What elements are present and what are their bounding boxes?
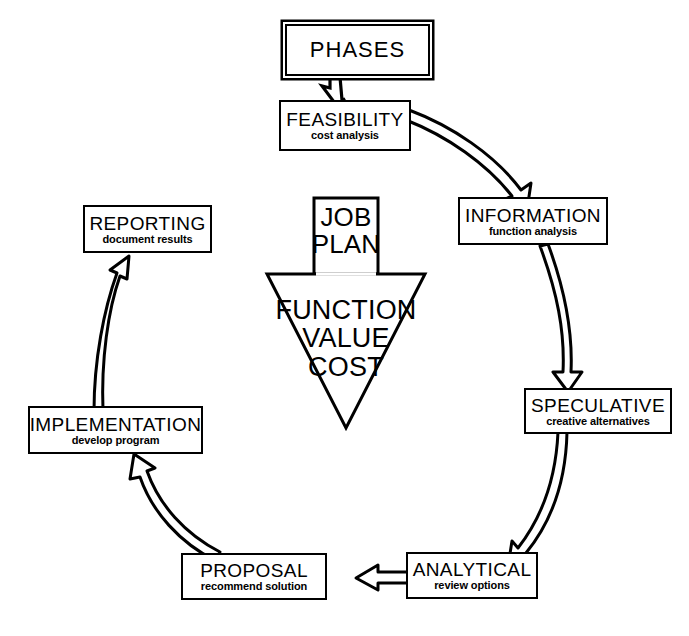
phase-title-implementation: IMPLEMENTATION [30, 415, 202, 434]
phase-subtitle-implementation: develop program [72, 435, 160, 446]
phase-subtitle-speculative: creative alternatives [546, 416, 650, 427]
phase-subtitle-analytical: review options [434, 580, 510, 591]
phase-box-implementation: IMPLEMENTATION develop program [28, 406, 203, 454]
job-plan-stem-line-1: JOB [262, 204, 430, 231]
phase-box-reporting: REPORTING document results [83, 205, 212, 253]
phase-title-feasibility: FEASIBILITY [286, 110, 403, 129]
job-plan-triangle-line-3: COST [262, 353, 430, 381]
connector-implementation-to-reporting [94, 256, 129, 411]
connector-information-to-speculative [540, 244, 582, 392]
job-plan-stem-label: JOB PLAN [262, 204, 430, 257]
phase-subtitle-reporting: document results [102, 234, 192, 245]
job-plan-stem-line-2: PLAN [262, 231, 430, 258]
job-plan-diagram: JOB PLAN FUNCTION VALUE COST PHASES FEAS… [0, 0, 689, 636]
job-plan-triangle-label: FUNCTION VALUE COST [262, 296, 430, 381]
phase-title-phases: PHASES [310, 39, 405, 61]
phase-title-speculative: SPECULATIVE [531, 396, 665, 415]
phase-subtitle-proposal: recommend solution [201, 581, 307, 592]
connector-feasibility-to-information [406, 110, 531, 210]
phase-title-information: INFORMATION [465, 206, 601, 225]
connector-proposal-to-implementation [130, 454, 220, 561]
phase-title-analytical: ANALYTICAL [413, 560, 532, 579]
job-plan-center-arrow: JOB PLAN FUNCTION VALUE COST [262, 196, 430, 436]
phase-title-reporting: REPORTING [89, 214, 205, 233]
phase-subtitle-information: function analysis [489, 226, 577, 237]
phase-box-analytical: ANALYTICAL review options [406, 552, 538, 599]
phase-box-feasibility: FEASIBILITY cost analysis [279, 100, 411, 151]
phase-title-proposal: PROPOSAL [200, 561, 308, 580]
phase-box-proposal: PROPOSAL recommend solution [181, 553, 327, 600]
job-plan-triangle-line-1: FUNCTION [262, 296, 430, 324]
phase-subtitle-feasibility: cost analysis [311, 130, 379, 141]
job-plan-triangle-line-2: VALUE [262, 324, 430, 352]
connector-speculative-to-analytical [508, 432, 567, 566]
phase-box-speculative: SPECULATIVE creative alternatives [524, 388, 672, 434]
phase-box-phases: PHASES [285, 24, 430, 76]
phase-box-information: INFORMATION function analysis [458, 197, 608, 245]
